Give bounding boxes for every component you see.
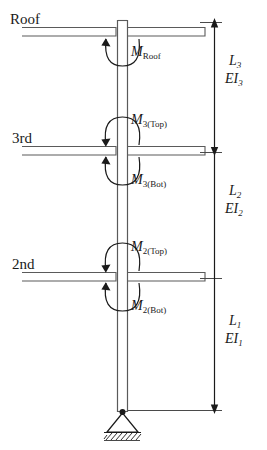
moment-diagram-figure: Roof 3rd 2nd MRoof M3(Top) M3(Bot) M2(To… xyxy=(0,0,267,450)
stiffness-subscript: 2 xyxy=(238,208,243,218)
moment-base: M xyxy=(131,112,143,127)
floor-label-roof: Roof xyxy=(10,12,40,27)
length-base: L xyxy=(229,313,237,328)
floor-label-second: 2nd xyxy=(12,257,35,272)
beam-roof-left xyxy=(22,28,116,37)
dimension-stiffness-label-1: EI1 xyxy=(225,332,243,346)
stiffness-base: EI xyxy=(225,71,238,86)
dimension-line-segment-1 xyxy=(211,278,218,414)
moment-base: M xyxy=(131,298,143,313)
length-subscript: 1 xyxy=(237,320,242,330)
length-base: L xyxy=(229,183,237,198)
moment-label-third-bottom: M3(Bot) xyxy=(131,173,166,187)
column xyxy=(118,20,128,412)
dimension-length-label-3: L3 xyxy=(229,54,241,68)
dimension-length-label-2: L2 xyxy=(229,184,241,198)
stiffness-base: EI xyxy=(225,201,238,216)
moment-subscript: 3(Bot) xyxy=(143,179,167,189)
moment-subscript: 3(Top) xyxy=(143,119,167,129)
beam-third-left xyxy=(22,147,116,156)
moment-base: M xyxy=(131,172,143,187)
stiffness-base: EI xyxy=(225,331,238,346)
length-base: L xyxy=(229,53,237,68)
stiffness-subscript: 1 xyxy=(238,338,243,348)
dimension-stiffness-label-2: EI2 xyxy=(225,202,243,216)
dimension-line-segment-2 xyxy=(211,147,218,278)
stiffness-subscript: 3 xyxy=(238,78,243,88)
beam-third-right xyxy=(128,147,205,156)
moment-subscript: Roof xyxy=(143,51,161,61)
frame-drawing xyxy=(0,0,267,450)
beam-second-left xyxy=(22,273,116,282)
moment-label-second-bottom: M2(Bot) xyxy=(131,299,166,313)
dimension-extension-lines xyxy=(128,23,222,411)
beam-second-right xyxy=(128,273,205,282)
dimension-length-label-1: L1 xyxy=(229,314,241,328)
beam-roof-right xyxy=(128,28,205,37)
moment-subscript: 2(Bot) xyxy=(143,305,167,315)
moment-label-second-top: M2(Top) xyxy=(131,240,167,254)
moment-label-roof: MRoof xyxy=(131,45,161,59)
moment-label-third-top: M3(Top) xyxy=(131,113,167,127)
floor-label-third: 3rd xyxy=(12,131,32,146)
length-subscript: 2 xyxy=(237,190,242,200)
dimension-line-segment-3 xyxy=(211,18,218,152)
pinned-support xyxy=(104,409,141,441)
moment-base: M xyxy=(131,239,143,254)
moment-subscript: 2(Top) xyxy=(143,246,167,256)
moment-base: M xyxy=(131,44,143,59)
length-subscript: 3 xyxy=(237,60,242,70)
dimension-stiffness-label-3: EI3 xyxy=(225,72,243,86)
